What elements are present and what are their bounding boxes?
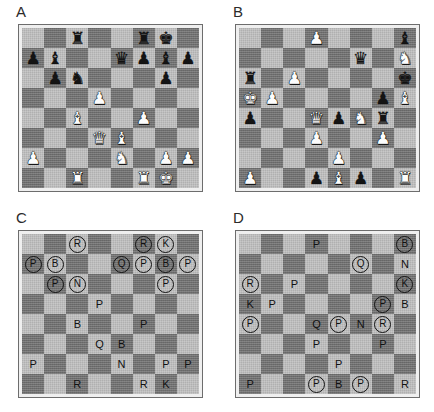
square-h1: ♜ [394,168,416,188]
square-f1: P [350,374,372,394]
marker-k: K [162,379,169,390]
square-f5 [350,294,372,314]
square-a7 [239,48,261,68]
square-b1 [261,168,283,188]
square-h3 [177,128,199,148]
marker-b: B [335,379,342,390]
white-queen: ♛ [309,110,324,127]
marker-r-circled: R [242,276,259,293]
square-e2: N [111,354,133,374]
white-rook: ♜ [70,170,85,187]
square-a1 [22,374,44,394]
square-g4 [155,314,177,334]
black-rook: ♜ [70,30,85,47]
square-e6 [328,274,350,294]
square-b6: ♟ [44,68,66,88]
square-h2: P [177,354,199,374]
square-g4 [155,108,177,128]
square-b7: B [44,254,66,274]
square-g5 [155,294,177,314]
square-e4: ♟ [328,108,350,128]
square-h5: ♝ [394,88,416,108]
square-h8: B [394,234,416,254]
square-f1: R [133,374,155,394]
square-c2 [66,354,88,374]
square-d3: ♟ [305,128,327,148]
square-c6: P [283,274,305,294]
square-b2 [261,354,283,374]
square-c7 [283,48,305,68]
black-bishop: ♝ [158,50,173,67]
white-pawn: ♟ [180,150,195,167]
square-h1: R [394,374,416,394]
marker-p-circled: P [352,376,369,393]
square-a7: ♟ [22,48,44,68]
square-c1 [283,168,305,188]
black-queen: ♛ [114,50,129,67]
white-knight: ♞ [397,50,412,67]
square-d2 [305,354,327,374]
marker-p: P [379,339,386,350]
square-e4 [111,314,133,334]
square-a3 [239,128,261,148]
square-d6 [88,68,110,88]
square-a5: K [239,294,261,314]
square-g5: P [372,294,394,314]
square-e1: ♝ [328,168,350,188]
square-d3: P [305,334,327,354]
square-e1 [111,374,133,394]
square-a6 [22,68,44,88]
marker-r: R [73,379,81,390]
square-c1 [283,374,305,394]
square-a5: ♚ [239,88,261,108]
square-d3: ♛ [88,128,110,148]
square-a2: ♟ [22,148,44,168]
square-d7 [88,48,110,68]
marker-q: Q [312,319,321,330]
square-g1 [372,168,394,188]
square-a2: P [22,354,44,374]
square-d8 [88,234,110,254]
square-h6: K [394,274,416,294]
black-rook: ♜ [242,70,257,87]
square-a3 [239,334,261,354]
square-h2 [394,148,416,168]
panel-b-board: ♟♝♛♞♜♟♚♚♟♟♝♟♛♟♞♜♟♟♟♟♟♝♟♜ [239,28,416,188]
square-c3 [66,334,88,354]
square-b1 [44,168,66,188]
square-d7 [305,254,327,274]
square-e8 [328,234,350,254]
white-rook: ♜ [136,170,151,187]
square-b7: ♝ [44,48,66,68]
square-g6 [372,274,394,294]
square-d2 [305,148,327,168]
square-e5 [328,294,350,314]
square-g1: K [155,374,177,394]
marker-n: N [357,319,365,330]
square-e8 [111,234,133,254]
marker-p: P [291,279,298,290]
panel-b-label: B [233,3,244,20]
square-e5 [111,88,133,108]
square-b8 [44,28,66,48]
square-h2: ♟ [177,148,199,168]
square-c6: N [66,274,88,294]
square-h6: ♚ [394,68,416,88]
square-a8 [239,234,261,254]
square-h2 [394,354,416,374]
square-d7 [88,254,110,274]
black-bishop: ♝ [48,50,63,67]
square-f6 [133,274,155,294]
square-f4: N [350,314,372,334]
square-g5 [155,88,177,108]
black-king: ♚ [158,30,173,47]
square-e1: B [328,374,350,394]
square-e7 [328,254,350,274]
white-pawn: ♟ [92,90,107,107]
square-d7 [305,48,327,68]
marker-p: P [269,299,276,310]
square-c7 [66,254,88,274]
square-a4: ♟ [239,108,261,128]
marker-p-circled: P [242,316,259,333]
square-c6: ♞ [66,68,88,88]
